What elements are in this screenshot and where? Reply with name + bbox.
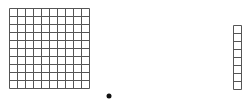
column-strip-svg — [0, 0, 245, 104]
column-strip-block — [0, 0, 245, 104]
